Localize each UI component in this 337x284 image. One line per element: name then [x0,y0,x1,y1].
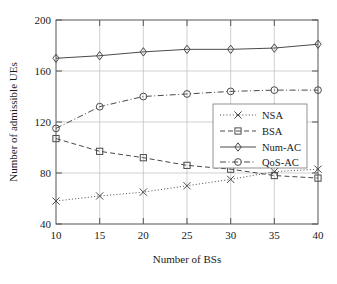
y-tick-label: 200 [35,14,52,26]
legend-label-qos-ac: QoS-AC [262,157,299,168]
x-tick-label: 10 [51,229,63,241]
y-tick-labels: 200 160 120 80 40 [35,14,52,230]
y-tick-label: 120 [35,116,52,128]
x-tick-label: 25 [182,229,194,241]
y-tick-label: 80 [40,167,52,179]
legend-label-bsa: BSA [262,126,283,137]
x-tick-labels: 10 15 20 25 30 35 40 [51,229,325,241]
chart-legend[interactable]: NSA BSA Num-AC QoS-AC [213,104,307,168]
line-chart-svg: 200 160 120 80 40 10 15 20 25 30 35 40 N… [0,0,337,284]
y-axis-title: Number of admissible UEs [7,62,19,181]
x-axis-title: Number of BSs [153,253,221,265]
x-tick-label: 15 [94,229,106,241]
x-tick-label: 35 [269,229,281,241]
x-tick-label: 20 [138,229,150,241]
y-tick-label: 160 [35,65,52,77]
x-tick-label: 30 [225,229,237,241]
legend-label-num-ac: Num-AC [262,142,301,153]
x-tick-label: 40 [313,229,325,241]
chart-figure: 200 160 120 80 40 10 15 20 25 30 35 40 N… [0,0,337,284]
legend-label-nsa: NSA [262,110,283,121]
